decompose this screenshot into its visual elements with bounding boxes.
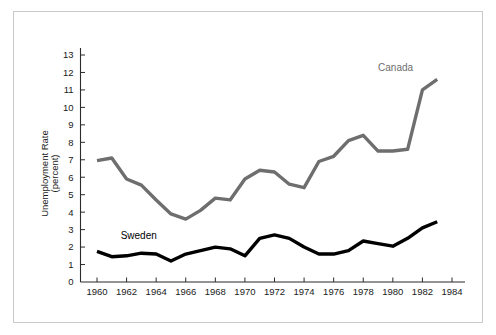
y-tick-label: 5 (68, 189, 73, 200)
series-label-sweden: Sweden (121, 230, 157, 241)
y-tick-label: 3 (68, 224, 73, 235)
y-tick-label: 11 (64, 84, 74, 95)
chart-figure: 012345678910111213 196019621964196619681… (0, 0, 496, 335)
y-tick-label: 9 (68, 119, 73, 130)
x-tick-label: 1964 (146, 286, 167, 297)
series-annotations: CanadaSweden (121, 62, 414, 242)
y-tick-label: 13 (63, 49, 74, 60)
y-tick-label: 6 (68, 172, 73, 183)
y-tick-label: 7 (68, 154, 73, 165)
series-line-canada (97, 79, 437, 219)
y-axis: 012345678910111213 (63, 48, 85, 287)
x-tick-label: 1968 (205, 286, 226, 297)
x-tick-label: 1970 (234, 286, 255, 297)
x-tick-label: 1972 (264, 286, 285, 297)
x-tick-label: 1966 (175, 286, 196, 297)
x-tick-label: 1982 (412, 286, 433, 297)
y-axis-title-line2: (percent) (49, 154, 60, 192)
line-chart-canvas: 012345678910111213 196019621964196619681… (0, 0, 496, 335)
x-tick-label: 1974 (294, 286, 315, 297)
y-tick-label: 2 (68, 241, 73, 252)
x-tick-label: 1978 (353, 286, 374, 297)
y-tick-label: 1 (68, 259, 73, 270)
x-tick-label: 1960 (86, 286, 107, 297)
y-tick-label: 0 (68, 276, 73, 287)
series-label-canada: Canada (378, 62, 413, 73)
x-tick-label: 1962 (116, 286, 137, 297)
series-line-sweden (97, 222, 437, 261)
y-axis-title: Unemployment Rate(percent) (39, 130, 60, 217)
x-tick-label: 1980 (382, 286, 403, 297)
x-tick-label: 1976 (323, 286, 344, 297)
x-axis: 1960196219641966196819701972197419761978… (81, 278, 466, 297)
y-tick-label: 4 (68, 207, 73, 218)
x-tick-label: 1984 (441, 286, 462, 297)
y-tick-label: 8 (68, 137, 73, 148)
y-tick-label: 10 (63, 102, 74, 113)
y-tick-label: 12 (63, 67, 74, 78)
